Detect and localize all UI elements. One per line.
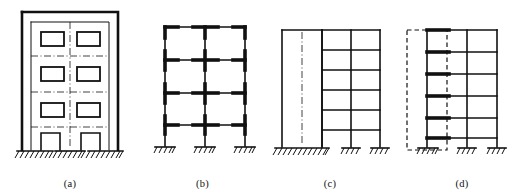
window-opening [77, 67, 100, 81]
fixed-support [457, 148, 476, 154]
fixed-support [234, 147, 255, 153]
panel-a: (a) [0, 0, 140, 191]
panel-caption-d: (d) [395, 178, 529, 189]
wall-base-support [273, 148, 329, 155]
panel-d: (d) [395, 0, 529, 191]
window-opening [77, 32, 100, 46]
window-opening [41, 103, 64, 117]
figure-sheet: (a) [0, 0, 529, 191]
building-elevation-drawing [0, 0, 140, 175]
door-opening [81, 133, 100, 150]
window-opening [41, 67, 64, 81]
panel-c: (c) [265, 0, 395, 191]
fixed-support [487, 148, 506, 154]
support-hatching [53, 151, 85, 158]
fixed-support [341, 148, 360, 154]
fixed-support [370, 148, 389, 154]
panel-caption-a: (a) [0, 178, 140, 189]
window-opening [77, 103, 100, 117]
fixed-support [154, 147, 175, 153]
shear-wall-frame-drawing [265, 0, 395, 175]
rigid-arm [427, 30, 449, 138]
window-opening [41, 32, 64, 46]
fixed-support [194, 147, 215, 153]
door-opening [41, 133, 60, 150]
support-hatching [86, 151, 123, 158]
wall-frame-model-drawing [395, 0, 529, 175]
support-hatching [15, 151, 53, 158]
panel-caption-c: (c) [265, 178, 395, 189]
panel-b: (b) [140, 0, 265, 191]
fixed-support [417, 148, 438, 154]
rigid-frame-drawing [140, 0, 265, 175]
panel-caption-b: (b) [140, 178, 265, 189]
